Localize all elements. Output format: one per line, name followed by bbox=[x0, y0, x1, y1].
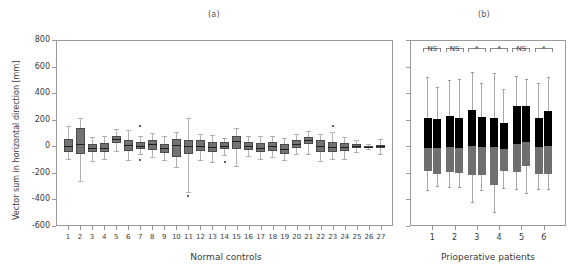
box-iqr bbox=[76, 128, 85, 154]
whisker-lower bbox=[164, 153, 165, 160]
boxplot-box bbox=[196, 0, 205, 271]
whisker-cap-upper bbox=[471, 72, 474, 73]
y-tick-mark bbox=[406, 199, 410, 200]
boxplot-box bbox=[100, 0, 109, 271]
whisker-cap-lower bbox=[378, 154, 383, 155]
whisker-cap-upper bbox=[282, 138, 287, 139]
median-line bbox=[232, 141, 241, 142]
y-tick-mark bbox=[406, 120, 410, 121]
y-tick-mark bbox=[52, 40, 56, 41]
median-line bbox=[64, 146, 73, 147]
whisker-cap-lower bbox=[448, 187, 451, 188]
whisker-lower bbox=[152, 150, 153, 157]
whisker-cap-lower bbox=[78, 181, 83, 182]
box-lower-quartile bbox=[535, 147, 543, 174]
whisker-cap-lower bbox=[246, 156, 251, 157]
boxplot-box bbox=[64, 0, 73, 271]
significance-bracket: * bbox=[490, 48, 508, 58]
box-lower-quartile bbox=[433, 148, 441, 174]
y-tick-label: 600 bbox=[24, 62, 50, 71]
whisker-cap-upper bbox=[234, 128, 239, 129]
whisker-cap-lower bbox=[525, 193, 528, 194]
median-line bbox=[256, 148, 265, 149]
y-tick-mark bbox=[406, 226, 410, 227]
boxplot-box bbox=[292, 0, 301, 271]
boxplot-box bbox=[244, 0, 253, 271]
whisker-cap-lower bbox=[480, 190, 483, 191]
boxplot-box bbox=[352, 0, 361, 271]
outlier-point bbox=[139, 159, 141, 161]
whisker-cap-upper bbox=[162, 136, 167, 137]
box-iqr bbox=[172, 139, 181, 157]
whisker-cap-upper bbox=[102, 136, 107, 137]
whisker-cap-lower bbox=[126, 160, 131, 161]
whisker-cap-lower bbox=[222, 155, 227, 156]
median-line bbox=[196, 146, 205, 147]
whisker-lower bbox=[200, 151, 201, 160]
whisker-cap-lower bbox=[66, 159, 71, 160]
whisker-cap-lower bbox=[426, 190, 429, 191]
whisker-upper bbox=[164, 136, 165, 143]
box-lower-quartile bbox=[522, 142, 530, 166]
boxplot-box bbox=[522, 0, 530, 271]
whisker-cap-lower bbox=[342, 159, 347, 160]
whisker-cap-upper bbox=[186, 118, 191, 119]
significance-label: NS bbox=[512, 45, 530, 53]
box-upper-quartile bbox=[522, 106, 530, 142]
whisker-lower bbox=[437, 174, 438, 187]
x-axis-title-panel-b: Prioperative patients bbox=[408, 252, 568, 262]
whisker-upper bbox=[128, 130, 129, 140]
whisker-cap-lower bbox=[186, 192, 191, 193]
boxplot-box bbox=[220, 0, 229, 271]
whisker-upper bbox=[449, 80, 450, 116]
median-line bbox=[340, 147, 349, 148]
whisker-cap-upper bbox=[270, 136, 275, 137]
box-lower-quartile bbox=[490, 147, 498, 185]
y-tick-mark bbox=[52, 93, 56, 94]
whisker-cap-upper bbox=[458, 79, 461, 80]
whisker-lower bbox=[248, 150, 249, 157]
whisker-cap-upper bbox=[502, 89, 505, 90]
y-tick-mark bbox=[52, 120, 56, 121]
whisker-lower bbox=[526, 166, 527, 193]
whisker-cap-upper bbox=[366, 144, 371, 145]
whisker-cap-lower bbox=[458, 187, 461, 188]
whisker-cap-lower bbox=[174, 167, 179, 168]
whisker-cap-lower bbox=[537, 189, 540, 190]
boxplot-box bbox=[340, 0, 349, 271]
whisker-upper bbox=[427, 77, 428, 118]
whisker-cap-upper bbox=[90, 137, 95, 138]
whisker-cap-lower bbox=[366, 149, 371, 150]
y-tick-label: 800 bbox=[24, 35, 50, 44]
whisker-lower bbox=[344, 151, 345, 159]
whisker-cap-upper bbox=[222, 138, 227, 139]
whisker-cap-lower bbox=[234, 166, 239, 167]
whisker-cap-upper bbox=[114, 129, 119, 130]
whisker-upper bbox=[437, 87, 438, 120]
whisker-cap-lower bbox=[282, 160, 287, 161]
whisker-cap-lower bbox=[493, 212, 496, 213]
whisker-upper bbox=[481, 83, 482, 118]
significance-label: * bbox=[468, 45, 486, 53]
significance-bracket: * bbox=[468, 48, 486, 58]
whisker-cap-lower bbox=[210, 162, 215, 163]
whisker-cap-upper bbox=[138, 136, 143, 137]
boxplot-box bbox=[208, 0, 217, 271]
whisker-cap-upper bbox=[174, 132, 179, 133]
x-axis-title-panel-a: Normal controls bbox=[146, 252, 306, 262]
whisker-upper bbox=[459, 79, 460, 118]
whisker-upper bbox=[494, 73, 495, 118]
median-line bbox=[124, 145, 133, 146]
median-line bbox=[244, 146, 253, 147]
whisker-lower bbox=[176, 157, 177, 167]
y-tick-mark bbox=[52, 146, 56, 147]
whisker-cap-upper bbox=[150, 133, 155, 134]
box-upper-quartile bbox=[544, 111, 552, 146]
boxplot-box bbox=[76, 0, 85, 271]
whisker-cap-upper bbox=[246, 136, 251, 137]
whisker-upper bbox=[188, 118, 189, 140]
boxplot-box bbox=[455, 0, 463, 271]
whisker-cap-lower bbox=[138, 154, 143, 155]
median-line bbox=[280, 149, 289, 150]
whisker-lower bbox=[104, 152, 105, 159]
